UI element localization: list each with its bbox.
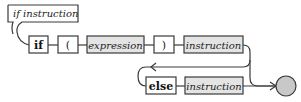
nonterminal-instruction: instruction bbox=[184, 36, 243, 53]
svg-text:if: if bbox=[34, 39, 44, 52]
syntax-diagram: if instruction if ( expression ) instruc… bbox=[0, 0, 301, 102]
svg-text:instruction: instruction bbox=[186, 40, 241, 51]
svg-text:expression: expression bbox=[88, 40, 143, 51]
nonterminal-expression: expression bbox=[87, 36, 144, 53]
svg-text:instruction: instruction bbox=[186, 81, 241, 92]
svg-text:(: ( bbox=[66, 39, 70, 52]
end-circle-icon bbox=[276, 76, 296, 96]
diagram-title: if instruction bbox=[13, 8, 78, 19]
nonterminal-else-instruction: instruction bbox=[185, 77, 243, 94]
terminal-else: else bbox=[146, 77, 176, 94]
svg-text:): ) bbox=[162, 39, 166, 52]
terminal-if: if bbox=[29, 36, 48, 53]
skip-else-path bbox=[250, 60, 276, 86]
terminal-close-paren: ) bbox=[154, 36, 174, 53]
terminal-open-paren: ( bbox=[58, 36, 78, 53]
svg-text:else: else bbox=[149, 80, 173, 93]
